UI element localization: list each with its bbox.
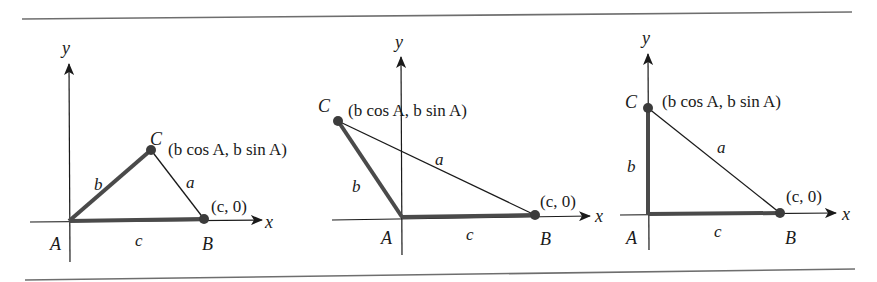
- y-axis: [69, 64, 70, 262]
- side-a-label: a: [717, 138, 726, 157]
- point-b: [775, 208, 785, 218]
- x-axis-label: x: [264, 212, 273, 232]
- vertex-b-label: B: [540, 229, 551, 249]
- panel-acute: x y A B C a b c (b cos A, b sin A) (c, 0…: [30, 38, 287, 262]
- vertex-a-label: A: [625, 228, 638, 248]
- coord-b-label: (c, 0): [786, 187, 822, 206]
- side-c: [402, 215, 535, 217]
- x-axis-label: x: [594, 206, 603, 226]
- point-c: [643, 103, 653, 113]
- y-axis-label: y: [60, 38, 70, 58]
- triangle-figure: x y A B C a b c (b cos A, b sin A) (c, 0…: [0, 0, 877, 282]
- top-rule: [22, 12, 852, 19]
- side-a-label: a: [186, 173, 195, 192]
- side-b-label: b: [94, 175, 103, 194]
- side-c-label: c: [714, 222, 722, 241]
- point-b: [199, 214, 209, 224]
- point-c: [333, 116, 343, 126]
- panel-right: x y A B C a b c (b cos A, b sin A) (c, 0…: [620, 28, 850, 250]
- side-b: [338, 121, 402, 217]
- y-axis-label: y: [393, 32, 403, 52]
- coord-c-label: (b cos A, b sin A): [348, 101, 467, 120]
- x-axis-label: x: [841, 204, 850, 224]
- side-c: [69, 219, 204, 221]
- coord-c-label: (b cos A, b sin A): [662, 92, 781, 111]
- y-axis-label: y: [640, 28, 650, 48]
- y-axis: [401, 57, 402, 255]
- side-c-label: c: [135, 231, 143, 250]
- side-b: [69, 150, 151, 221]
- vertex-a-label: A: [49, 234, 62, 254]
- vertex-b-label: B: [202, 234, 213, 254]
- side-a-label: a: [435, 150, 444, 169]
- vertex-b-label: B: [785, 228, 796, 248]
- vertex-c-label: C: [318, 96, 331, 116]
- vertex-c-label: C: [150, 129, 163, 149]
- panel-obtuse: x y A B C a b c (b cos A, b sin A) (c, 0…: [318, 32, 603, 255]
- bottom-rule: [25, 269, 855, 280]
- point-b: [530, 210, 540, 220]
- vertex-c-label: C: [625, 92, 638, 112]
- side-b-label: b: [627, 157, 636, 176]
- vertex-a-label: A: [380, 228, 393, 248]
- side-a: [648, 108, 780, 213]
- side-b-label: b: [352, 177, 361, 196]
- side-a: [151, 150, 204, 219]
- coord-c-label: (b cos A, b sin A): [168, 140, 287, 159]
- coord-b-label: (c, 0): [211, 197, 247, 216]
- coord-b-label: (c, 0): [540, 192, 576, 211]
- side-c-label: c: [466, 225, 474, 244]
- side-c: [648, 213, 780, 214]
